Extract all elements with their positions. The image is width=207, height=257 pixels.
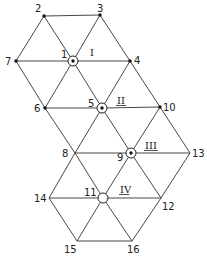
edge-2-7 bbox=[16, 16, 44, 61]
node-9 bbox=[126, 148, 136, 158]
node-label-9: 9 bbox=[117, 152, 123, 163]
edge-2-3 bbox=[44, 15, 100, 16]
node-label-15: 15 bbox=[64, 244, 77, 255]
region-label-I: I bbox=[90, 47, 94, 58]
edge-4-10 bbox=[130, 61, 160, 107]
node-1 bbox=[68, 56, 78, 66]
edge-3-4 bbox=[100, 15, 130, 61]
node-label-11: 11 bbox=[84, 187, 97, 198]
edge-9-12 bbox=[131, 153, 161, 198]
region-label-II: II bbox=[117, 95, 125, 106]
node-label-16: 16 bbox=[127, 244, 140, 255]
edge-3-1 bbox=[73, 15, 100, 61]
node-dot-icon bbox=[14, 59, 17, 62]
node-label-4: 4 bbox=[134, 55, 140, 66]
node-dot-icon bbox=[43, 106, 46, 109]
edge-5-9 bbox=[102, 108, 131, 153]
edge-14-15 bbox=[49, 198, 77, 241]
edge-11-15 bbox=[77, 198, 103, 241]
node-label-13: 13 bbox=[192, 148, 205, 159]
node-4 bbox=[128, 59, 131, 62]
region-label-IV: IV bbox=[120, 184, 132, 195]
region-label-III: III bbox=[145, 140, 157, 151]
node-label-1: 1 bbox=[61, 49, 67, 60]
node-label-14: 14 bbox=[34, 193, 47, 204]
node-11 bbox=[98, 193, 108, 203]
node-dot-icon bbox=[42, 14, 45, 17]
edge-12-16 bbox=[132, 198, 161, 241]
node-10 bbox=[158, 105, 161, 108]
node-dot-icon bbox=[71, 59, 74, 62]
node-label-8: 8 bbox=[62, 148, 68, 159]
edge-6-8 bbox=[45, 108, 75, 153]
node-6 bbox=[43, 106, 46, 109]
node-dot-icon bbox=[128, 59, 131, 62]
node-label-12: 12 bbox=[162, 201, 175, 212]
edge-4-5 bbox=[102, 61, 130, 108]
edge-5-8 bbox=[75, 108, 102, 153]
edge-8-14 bbox=[49, 153, 75, 198]
node-label-5: 5 bbox=[88, 98, 94, 109]
edge-13-12 bbox=[161, 153, 190, 198]
edge-2-1 bbox=[44, 16, 73, 61]
node-ring-icon bbox=[98, 193, 108, 203]
node-dot-icon bbox=[100, 106, 103, 109]
node-7 bbox=[14, 59, 17, 62]
node-dot-icon bbox=[129, 151, 132, 154]
node-dot-icon bbox=[158, 105, 161, 108]
node-label-6: 6 bbox=[34, 103, 40, 114]
node-label-7: 7 bbox=[5, 56, 11, 67]
node-label-10: 10 bbox=[163, 102, 176, 113]
node-2 bbox=[42, 14, 45, 17]
region-labels-layer: IIIIIIIV bbox=[90, 47, 158, 195]
edge-7-6 bbox=[16, 61, 45, 108]
node-5 bbox=[97, 103, 107, 113]
edge-10-13 bbox=[160, 107, 190, 153]
edge-5-10 bbox=[102, 107, 160, 108]
node-label-2: 2 bbox=[35, 3, 41, 14]
node-label-3: 3 bbox=[97, 3, 103, 14]
edge-1-6 bbox=[45, 61, 73, 108]
edge-11-16 bbox=[103, 198, 132, 241]
lattice-diagram: 12345678910111213141516 IIIIIIIV bbox=[0, 0, 207, 257]
